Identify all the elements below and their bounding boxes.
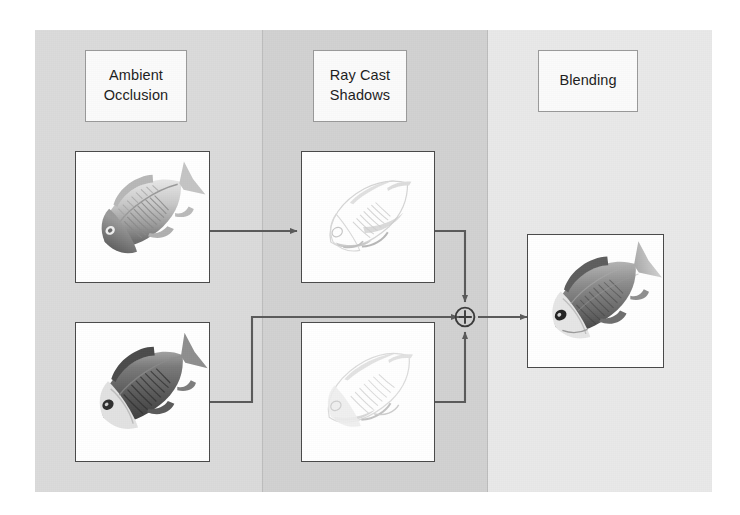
label-ambient-occlusion: Ambient Occlusion	[85, 50, 187, 122]
thumbnail-blend-output	[527, 234, 664, 368]
panel-divider-2	[487, 30, 488, 492]
label-ray-cast-shadows: Ray Cast Shadows	[313, 50, 407, 122]
label-rc-line2: Shadows	[330, 86, 390, 106]
diagram-root: Ambient Occlusion Ray Cast Shadows Blend…	[0, 0, 740, 515]
pipeline-diagram: Ambient Occlusion Ray Cast Shadows Blend…	[35, 30, 712, 492]
thumbnail-rcs-top	[301, 151, 435, 283]
thumbnail-rcs-bottom	[301, 322, 435, 462]
label-ao-line2: Occlusion	[104, 86, 169, 106]
thumbnail-ao-bottom	[75, 322, 210, 462]
label-blending: Blending	[538, 50, 638, 112]
label-bl-line1: Blending	[559, 71, 616, 91]
label-rc-line1: Ray Cast	[330, 66, 390, 86]
panel-divider-1	[262, 30, 263, 492]
label-ao-line1: Ambient	[104, 66, 169, 86]
thumbnail-ao-top	[75, 151, 210, 283]
